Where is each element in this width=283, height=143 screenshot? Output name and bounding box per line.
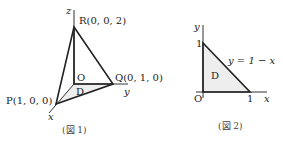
region-d-label-2: D	[211, 70, 219, 81]
z-axis-label: z	[65, 5, 72, 16]
figure-1-caption: (図 1)	[62, 125, 87, 135]
region-d-label: D	[76, 86, 84, 97]
line-equation-label: y = 1 − x	[227, 55, 275, 66]
point-o-label: O	[77, 72, 85, 83]
y-axis-label-2: y	[193, 21, 200, 32]
tick-y1-label: 1	[196, 38, 202, 49]
tick-x1-label: 1	[247, 93, 253, 104]
point-p-label: P(1, 0, 0)	[6, 95, 52, 106]
origin-label: O	[194, 93, 202, 104]
x-axis-label-2: x	[264, 93, 270, 104]
point-r-label: R(0, 0, 2)	[79, 15, 126, 26]
y-axis-label: y	[123, 86, 130, 97]
figure-1: z R(0, 0, 2) O Q(0, 1, 0) y D P(1, 0, 0)…	[6, 5, 163, 135]
figure-2: y 1 y = 1 − x D O 1 x (図 2)	[193, 21, 275, 131]
x-axis-label: x	[48, 111, 54, 122]
figure-2-caption: (図 2)	[218, 121, 243, 131]
point-q-label: Q(0, 1, 0)	[115, 72, 163, 83]
diagram-canvas: z R(0, 0, 2) O Q(0, 1, 0) y D P(1, 0, 0)…	[0, 0, 283, 143]
